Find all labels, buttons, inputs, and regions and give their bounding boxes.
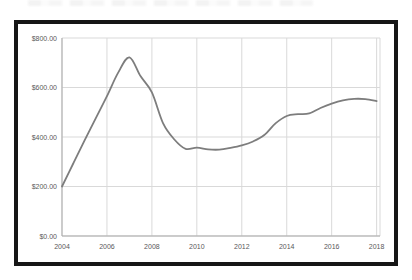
y-axis-tick-label: $600.00 xyxy=(32,84,57,91)
x-axis-tick-label: 2012 xyxy=(234,243,250,250)
x-axis-tick-label: 2008 xyxy=(144,243,160,250)
screenshot-root: $0.00$200.00$400.00$600.00$800.002004200… xyxy=(0,0,412,280)
x-axis-tick-label: 2006 xyxy=(99,243,115,250)
y-axis-tick-label: $200.00 xyxy=(32,183,57,190)
x-axis-tick-label: 2016 xyxy=(324,243,340,250)
y-axis-tick-label: $400.00 xyxy=(32,134,57,141)
y-axis-tick-label: $800.00 xyxy=(32,35,57,42)
x-axis-tick-label: 2004 xyxy=(54,243,70,250)
price-line-chart: $0.00$200.00$400.00$600.00$800.002004200… xyxy=(0,0,412,280)
data-series-line xyxy=(62,57,377,186)
x-axis-tick-label: 2014 xyxy=(279,243,295,250)
x-axis-tick-label: 2010 xyxy=(189,243,205,250)
y-axis-tick-label: $0.00 xyxy=(39,233,57,240)
x-axis-tick-label: 2018 xyxy=(369,243,385,250)
